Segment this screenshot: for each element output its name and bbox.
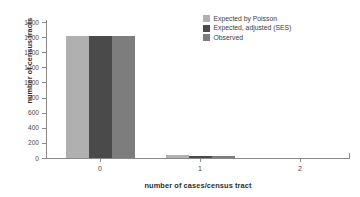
legend-item: Expected, adjusted (SES) bbox=[203, 24, 353, 33]
bar bbox=[166, 155, 189, 158]
x-tick bbox=[300, 158, 301, 162]
bar bbox=[89, 36, 112, 158]
y-tick-label: 200 bbox=[0, 139, 39, 146]
x-tick-label: 1 bbox=[185, 165, 215, 172]
legend-swatch-icon bbox=[203, 15, 210, 22]
x-tick bbox=[100, 158, 101, 162]
legend-label: Expected by Poisson bbox=[214, 15, 277, 23]
y-tick-label: 1200 bbox=[0, 64, 39, 71]
y-tick bbox=[42, 158, 46, 159]
y-tick-label: 400 bbox=[0, 124, 39, 131]
bar bbox=[66, 36, 89, 158]
legend-label: Observed bbox=[214, 34, 243, 42]
bar bbox=[189, 156, 212, 158]
x-tick bbox=[200, 158, 201, 162]
y-tick-label: 600 bbox=[0, 109, 39, 116]
y-tick-label: 0 bbox=[0, 155, 39, 162]
bar-chart: number of census tracts 0200400600800100… bbox=[0, 0, 360, 197]
y-tick-label: 800 bbox=[0, 94, 39, 101]
legend-label: Expected, adjusted (SES) bbox=[214, 24, 292, 32]
x-axis-line bbox=[46, 158, 350, 159]
y-tick-label: 1800 bbox=[0, 19, 39, 26]
legend-swatch-icon bbox=[203, 25, 210, 32]
legend-swatch-icon bbox=[203, 34, 210, 41]
legend: Expected by PoissonExpected, adjusted (S… bbox=[203, 14, 353, 43]
legend-item: Expected by Poisson bbox=[203, 14, 353, 23]
x-tick-label: 2 bbox=[285, 165, 315, 172]
bar bbox=[112, 36, 135, 158]
y-tick-label: 1400 bbox=[0, 49, 39, 56]
x-axis-title: number of cases/census tract bbox=[46, 181, 350, 190]
bar bbox=[212, 156, 235, 158]
x-tick-label: 0 bbox=[85, 165, 115, 172]
y-tick-label: 1600 bbox=[0, 34, 39, 41]
y-tick-label: 1000 bbox=[0, 79, 39, 86]
legend-item: Observed bbox=[203, 33, 353, 42]
